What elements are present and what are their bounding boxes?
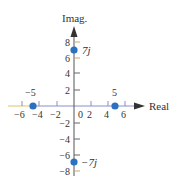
y-tick-label: −6 [59, 150, 70, 161]
y-tick-label: 8 [65, 37, 70, 48]
point-label-neg-5: −5 [25, 87, 36, 98]
y-tick-label: −4 [59, 134, 70, 145]
y-tick-labels: 8 6 4 2 −2 −4 −6 −8 [59, 37, 70, 177]
point-label-5: 5 [112, 87, 117, 98]
point-7j [70, 46, 77, 53]
y-tick-label: −2 [59, 118, 70, 129]
imag-axis-arrow-icon [71, 26, 78, 37]
x-tick-label: −4 [32, 109, 43, 120]
y-tick-label: −8 [59, 166, 70, 177]
point-neg-5 [29, 102, 36, 109]
imag-axis-label: Imag. [62, 12, 88, 24]
point-label-7j: 7j [82, 44, 91, 56]
y-tick-label: 2 [65, 85, 70, 96]
x-tick-label: 4 [104, 109, 109, 120]
x-tick-label: −6 [14, 109, 25, 120]
y-tick-label: 6 [65, 53, 70, 64]
y-tick-label: 4 [65, 68, 70, 79]
point-label-neg-7j: −7j [81, 156, 97, 168]
real-axis-label: Real [149, 100, 169, 112]
x-tick-label: 2 [87, 109, 92, 120]
point-5 [111, 102, 118, 109]
x-tick-label: 0 [78, 109, 83, 120]
point-neg-7j [70, 158, 77, 165]
real-axis-arrow-icon [134, 103, 145, 110]
x-tick-labels: −6 −4 −2 0 2 4 6 [14, 109, 126, 120]
complex-plane-diagram: Real Imag. −6 −4 −2 0 2 4 6 8 6 4 2 −2 [0, 0, 180, 190]
x-tick-label: 6 [121, 109, 126, 120]
